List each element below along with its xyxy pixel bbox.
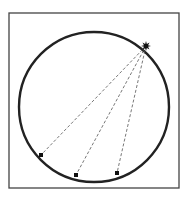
dashed-chords: [41, 46, 146, 175]
point-marker: [74, 173, 78, 177]
dashed-chord: [76, 46, 146, 175]
star-icon: [141, 41, 151, 51]
target-points: [39, 153, 119, 177]
dashed-chord: [41, 46, 146, 155]
circle-chord-diagram: [0, 0, 192, 198]
circle-outline: [19, 32, 169, 182]
point-marker: [39, 153, 43, 157]
point-marker: [115, 171, 119, 175]
dashed-chord: [117, 46, 146, 173]
